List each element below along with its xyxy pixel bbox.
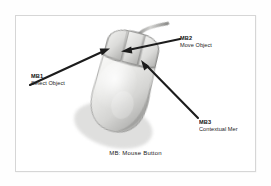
callout-mb1-tag: MB1 (31, 73, 65, 79)
figure-frame (15, 15, 256, 172)
callout-mb1: MB1 Select Object (31, 73, 65, 86)
callout-mb3-description: Contextual Mer (199, 126, 238, 132)
callout-mb2: MB2 Move Object (180, 35, 212, 48)
figure-caption: MB: Mouse Button (0, 150, 271, 156)
callout-mb2-description: Move Object (180, 42, 212, 48)
callout-mb3-tag: MB3 (199, 119, 238, 125)
callout-mb1-description: Select Object (31, 80, 65, 86)
figure-canvas: MB1 Select Object MB2 Move Object MB3 Co… (0, 0, 271, 186)
callout-mb3: MB3 Contextual Mer (199, 119, 238, 132)
callout-mb2-tag: MB2 (180, 35, 212, 41)
